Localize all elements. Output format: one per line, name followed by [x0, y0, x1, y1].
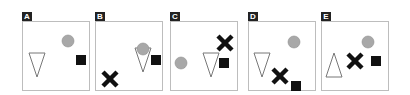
circle-icon	[288, 36, 300, 48]
panel-frame	[170, 21, 238, 91]
square-icon	[76, 55, 86, 65]
circle-icon	[62, 35, 74, 47]
shapes-layer	[171, 22, 237, 90]
panel-label: D	[248, 12, 258, 21]
panel-frame	[95, 21, 163, 91]
square-icon	[371, 56, 381, 66]
circle-icon	[175, 57, 187, 69]
panel-frame	[321, 21, 389, 91]
cross-icon	[348, 54, 362, 68]
circle-icon	[362, 36, 374, 48]
square-icon	[291, 81, 301, 91]
cross-icon	[273, 69, 287, 83]
panel-frame	[248, 21, 316, 91]
panel-label: B	[95, 12, 105, 21]
square-icon	[151, 55, 161, 65]
cross-icon	[218, 36, 232, 50]
panel-label: C	[170, 12, 180, 21]
triangle-down-icon	[29, 53, 45, 77]
panel-frame	[22, 21, 90, 91]
panel-label: A	[22, 12, 32, 21]
triangle-up-icon	[326, 53, 342, 77]
panel-label: E	[321, 12, 331, 21]
circle-icon	[137, 43, 149, 55]
shapes-layer	[249, 22, 315, 90]
square-icon	[219, 58, 229, 68]
shapes-layer	[23, 22, 89, 90]
triangle-down-icon	[203, 53, 219, 77]
triangle-down-icon	[254, 53, 270, 77]
shapes-layer	[96, 22, 162, 90]
shapes-layer	[322, 22, 388, 90]
cross-icon	[103, 72, 117, 86]
